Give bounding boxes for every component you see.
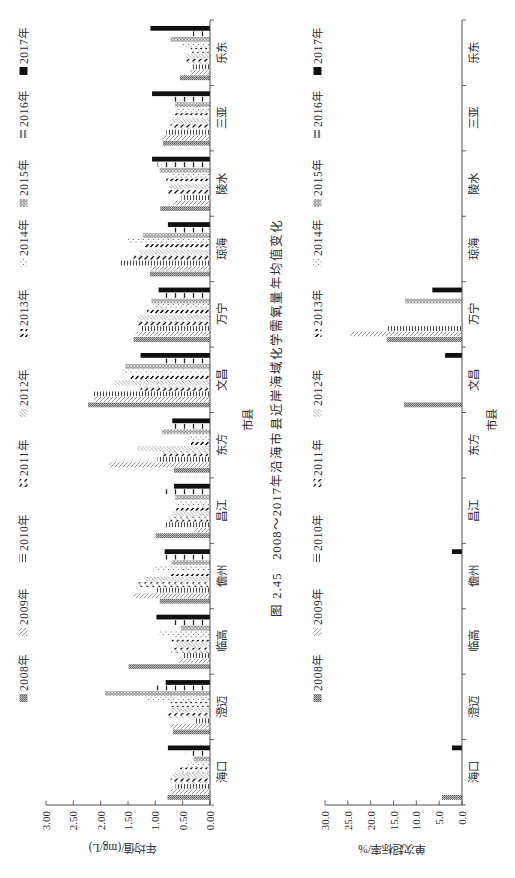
bar [172,228,210,233]
bar [94,397,210,402]
bar [150,266,210,271]
bar [174,484,210,489]
figure-caption: 图 2.45 2008～2017年沿海市县近岸海域化学需氧量年均值变化 [269,219,284,617]
bar [193,31,210,36]
bar [158,457,210,462]
legend-label: 2013年 [311,289,324,326]
legend-swatch-icon [314,409,322,417]
legend-swatch-icon [314,259,322,267]
bar [93,391,210,396]
bar [172,708,210,713]
category-label: 昌江 [468,499,480,522]
legend-label: 2015年 [17,159,30,196]
bar [141,386,210,391]
legend-label: 2016年 [311,90,324,127]
legend-item: 2011年 [17,439,30,487]
bar [133,337,210,342]
legend-item: 2013年 [311,289,324,337]
bar [405,299,462,304]
value-tick-label: 2.50 [67,811,79,831]
category-label: 东方 [467,434,480,456]
bar [109,462,210,467]
bar [177,500,210,505]
legend-item: 2013年 [17,289,30,337]
legend-item: 2009年 [311,588,324,636]
legend-swatch-icon [20,628,28,636]
bar [125,364,210,369]
legend-swatch-icon [314,67,322,75]
legend-label: 2008年 [311,654,324,691]
bar [166,179,210,184]
bar [452,745,462,750]
bar [136,332,210,337]
category-label: 万宁 [215,303,228,325]
category-axis: 海口澄迈临高儋州昌江东方文昌万宁琼海陵水三亚乐东 [210,20,228,805]
bar [350,332,462,337]
bar [154,304,210,309]
bar [172,173,210,178]
bar [173,620,210,625]
legend-swatch-icon [20,259,28,267]
legend-item: 2008年 [17,654,30,702]
legend-label: 2010年 [17,514,30,551]
value-tick-label: 0.00 [204,811,216,831]
bar [442,795,462,800]
value-tick-label: 0.0 [456,811,468,825]
legend-swatch-icon [20,130,28,138]
bar [166,713,210,718]
bar [171,702,210,707]
category-label: 儋州 [468,565,480,587]
value-tick-label: 1.50 [122,811,134,831]
legend-swatch-icon [20,329,28,337]
bar [387,326,462,331]
category-label: 陵水 [468,172,480,195]
value-tick-label: 10.0 [410,811,422,831]
legend-label: 2014年 [311,219,324,256]
bar [176,784,210,789]
value-tick-label: 15.0 [388,811,400,831]
category-label: 海口 [467,761,480,783]
bar [150,272,210,277]
category-label: 万宁 [467,303,480,325]
bar [173,97,210,102]
category-label: 海口 [215,761,228,783]
legend-label: 2014年 [17,219,30,256]
bar [133,593,210,598]
bar [144,577,210,582]
legend-label: 2008年 [17,654,30,691]
bar [188,435,210,440]
bar [172,560,210,565]
bar [156,615,210,620]
legend-item: 2012年 [311,369,324,417]
bar [194,719,210,724]
bar [387,337,462,342]
bar [194,756,210,761]
legend-swatch-icon [20,67,28,75]
cod-annual-mean-chart: 2008年2009年2010年2011年2012年2013年2014年2015年… [17,20,254,855]
legend-item: 2012年 [17,369,30,417]
bar [186,59,210,64]
bar [162,555,210,560]
category-label: 儋州 [216,565,228,587]
legend-item: 2014年 [311,219,324,267]
bar [131,375,210,380]
bar [160,206,210,211]
category-label: 三亚 [216,107,228,129]
category-label: 澄迈 [467,695,480,718]
bar [171,724,210,729]
bar [181,626,210,631]
bar [171,37,210,42]
legend-label: 2011年 [311,439,324,476]
bar [165,549,210,554]
bar [175,495,210,500]
bar [180,767,210,772]
legend-label: 2012年 [17,369,30,406]
legend-item: 2015年 [17,159,30,207]
bar [120,261,210,266]
bar [166,680,210,685]
bar [182,42,210,47]
category-label: 昌江 [216,499,228,522]
bar [159,631,210,636]
category-label: 澄迈 [215,695,228,718]
legend-swatch-icon [314,554,322,562]
